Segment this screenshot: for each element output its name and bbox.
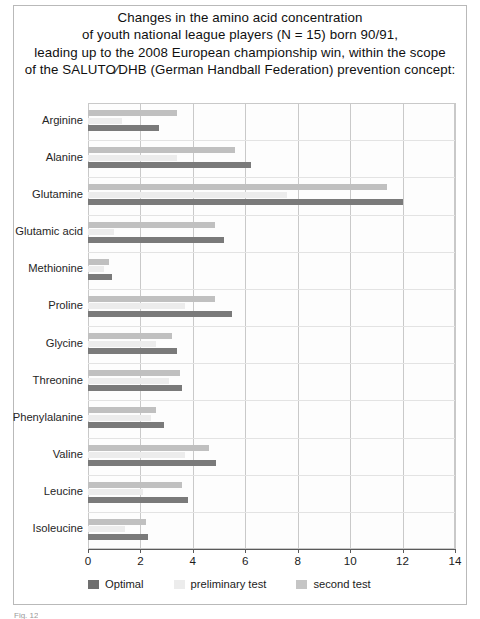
bar-prelim-glutamic-acid (88, 229, 114, 235)
bar-second-arginine (88, 110, 177, 116)
bar-second-alanine (88, 147, 235, 153)
x-tick-label-6: 6 (242, 554, 248, 567)
bar-second-glutamic-acid (88, 222, 215, 228)
bar-optimal-leucine (88, 497, 188, 503)
bar-prelim-phenylalanine (88, 415, 151, 421)
legend-label: second test (313, 578, 370, 590)
bar-second-phenylalanine (88, 407, 156, 413)
bar-second-methionine (88, 259, 109, 265)
bar-optimal-glutamine (88, 199, 403, 205)
bar-prelim-isoleucine (88, 526, 125, 532)
x-tick-8 (298, 549, 299, 553)
y-label-threonine: Threonine (0, 374, 83, 386)
bar-second-leucine (88, 482, 182, 488)
x-tick-6 (245, 549, 246, 553)
y-label-valine: Valine (0, 448, 83, 460)
bar-optimal-glutamic-acid (88, 237, 224, 243)
x-tick-label-14: 14 (449, 554, 462, 567)
y-label-alanine: Alanine (0, 151, 83, 163)
bar-prelim-threonine (88, 378, 169, 384)
x-tick-14 (455, 549, 456, 553)
x-tick-label-12: 12 (396, 554, 409, 567)
y-label-glutamine: Glutamine (0, 188, 83, 200)
bar-optimal-glycine (88, 348, 177, 354)
legend-label: preliminary test (191, 578, 267, 590)
bar-second-valine (88, 445, 209, 451)
bar-optimal-isoleucine (88, 534, 148, 540)
x-tick-label-0: 0 (85, 554, 91, 567)
x-tick-12 (403, 549, 404, 553)
bar-optimal-arginine (88, 125, 159, 131)
title-line-4: of the SALUTO∕DHB (German Handball Feder… (14, 61, 466, 78)
bar-group-threonine (88, 363, 455, 400)
bar-prelim-leucine (88, 489, 143, 495)
bar-optimal-valine (88, 460, 216, 466)
title-line-2: of youth national league players (N = 15… (14, 26, 466, 43)
bar-optimal-alanine (88, 162, 251, 168)
plot-area (88, 103, 455, 549)
legend-swatch-prelim-icon (174, 580, 185, 589)
y-label-leucine: Leucine (0, 485, 83, 497)
bar-prelim-proline (88, 303, 185, 309)
x-tick-label-8: 8 (294, 554, 300, 567)
bar-group-valine (88, 438, 455, 475)
bar-group-methionine (88, 252, 455, 289)
y-label-arginine: Arginine (0, 114, 83, 126)
y-label-isoleucine: Isoleucine (0, 522, 83, 534)
bar-second-glycine (88, 333, 172, 339)
bar-group-glutamic-acid (88, 215, 455, 252)
bar-optimal-phenylalanine (88, 422, 164, 428)
x-tick-0 (88, 549, 89, 553)
bar-prelim-glutamine (88, 192, 287, 198)
legend-item-second: second test (296, 578, 370, 590)
y-axis-category-labels: ArginineAlanineGlutamineGlutamic acidMet… (0, 103, 83, 549)
bar-prelim-methionine (88, 266, 104, 272)
legend-item-optimal: Optimal (88, 578, 144, 590)
legend-item-prelim: preliminary test (174, 578, 267, 590)
bar-group-arginine (88, 103, 455, 140)
gridline-14 (455, 103, 456, 549)
bar-group-glutamine (88, 177, 455, 214)
y-label-phenylalanine: Phenylalanine (0, 411, 83, 423)
bar-prelim-glycine (88, 341, 156, 347)
chart-legend: Optimalpreliminary testsecond test (88, 578, 401, 590)
bar-group-phenylalanine (88, 400, 455, 437)
bar-group-proline (88, 289, 455, 326)
bar-optimal-threonine (88, 385, 182, 391)
bar-second-glutamine (88, 184, 387, 190)
bar-optimal-methionine (88, 274, 112, 280)
legend-swatch-second-icon (296, 580, 307, 589)
x-axis-line (88, 549, 455, 550)
legend-label: Optimal (105, 578, 144, 590)
bar-second-threonine (88, 370, 180, 376)
bar-group-glycine (88, 326, 455, 363)
title-line-1: Changes in the amino acid concentration (14, 9, 466, 26)
y-label-methionine: Methionine (0, 262, 83, 274)
figure-caption: Fig. 12 (14, 611, 38, 619)
y-label-glycine: Glycine (0, 337, 83, 349)
bar-prelim-arginine (88, 118, 122, 124)
x-tick-10 (350, 549, 351, 553)
bar-prelim-valine (88, 452, 185, 458)
x-tick-4 (193, 549, 194, 553)
y-label-glutamic-acid: Glutamic acid (0, 225, 83, 237)
bar-second-proline (88, 296, 215, 302)
x-tick-2 (140, 549, 141, 553)
bar-optimal-proline (88, 311, 232, 317)
chart-title: Changes in the amino acid concentration … (14, 9, 466, 79)
x-tick-label-10: 10 (344, 554, 357, 567)
figure-container: Changes in the amino acid concentration … (0, 0, 480, 619)
x-tick-label-2: 2 (137, 554, 143, 567)
bar-prelim-alanine (88, 155, 177, 161)
bar-second-isoleucine (88, 519, 146, 525)
bar-group-leucine (88, 475, 455, 512)
bar-group-alanine (88, 140, 455, 177)
title-line-3: leading up to the 2008 European champion… (14, 44, 466, 61)
y-label-proline: Proline (0, 299, 83, 311)
legend-swatch-optimal-icon (88, 580, 99, 589)
bar-group-isoleucine (88, 512, 455, 549)
x-tick-label-4: 4 (190, 554, 196, 567)
